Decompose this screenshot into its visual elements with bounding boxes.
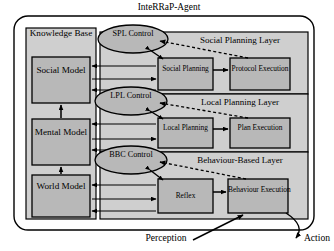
reflex-box [158, 179, 213, 213]
world-model-box [32, 175, 90, 217]
social-planning-box [158, 58, 213, 90]
diagram-canvas: InteRRaP-Agent Knowledge Base Social Mod… [0, 0, 334, 251]
lpl-control-ellipse [95, 87, 167, 115]
protocol-execution-box [230, 58, 290, 90]
diagram-vector-layer [0, 0, 334, 251]
bbc-control-ellipse [95, 146, 167, 174]
spl-control-ellipse [98, 25, 168, 53]
local-planning-box [158, 118, 213, 148]
behaviour-execution-box [228, 179, 288, 213]
mental-model-box [32, 119, 90, 165]
plan-execution-box [230, 118, 290, 148]
social-model-box [32, 57, 90, 103]
